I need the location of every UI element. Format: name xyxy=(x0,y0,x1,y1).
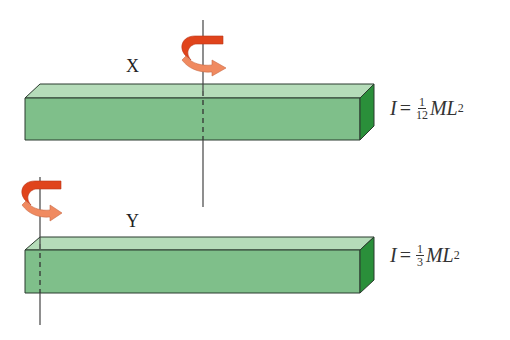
formula-x-equals: = xyxy=(400,97,411,120)
formula-y: I = 1 3 ML2 xyxy=(390,243,460,268)
formula-y-equals: = xyxy=(400,244,411,267)
formula-y-lhs: I xyxy=(390,244,397,267)
formula-x-denominator: 12 xyxy=(416,109,428,121)
rod-x-label: X xyxy=(126,56,139,77)
diagram-canvas xyxy=(0,0,510,340)
formula-x-fraction: 1 12 xyxy=(416,96,428,121)
formula-y-fraction: 1 3 xyxy=(416,243,424,268)
rod-y-top-face xyxy=(25,237,374,250)
rod-y-label: Y xyxy=(126,211,139,232)
formula-x-lhs: I xyxy=(390,97,397,120)
rotation-arrow-x-icon xyxy=(182,36,226,76)
formula-y-denominator: 3 xyxy=(417,256,423,268)
rod-x xyxy=(25,84,374,140)
rod-y xyxy=(25,237,374,293)
formula-x-exponent: 2 xyxy=(458,101,464,116)
rod-x-top-face xyxy=(25,84,374,98)
rod-y-front-face xyxy=(25,250,360,293)
formula-y-rhs: ML xyxy=(426,244,454,267)
formula-y-exponent: 2 xyxy=(454,248,460,263)
rotation-arrow-y-icon xyxy=(22,181,62,221)
formula-x: I = 1 12 ML2 xyxy=(390,96,464,121)
formula-x-rhs: ML xyxy=(430,97,458,120)
rod-x-front-face xyxy=(25,98,360,140)
